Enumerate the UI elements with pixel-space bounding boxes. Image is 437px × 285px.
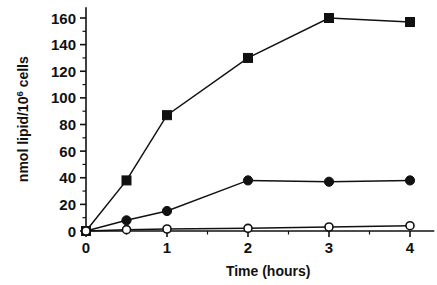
x-tick-label: 1: [163, 239, 171, 256]
data-point-filled-square: [406, 17, 415, 26]
data-point-open-circle: [82, 227, 90, 235]
data-point-filled-circle: [243, 176, 252, 185]
series-line: [86, 18, 410, 231]
data-point-filled-circle: [405, 176, 414, 185]
data-point-open-circle: [123, 226, 131, 234]
series-open-circle: [82, 222, 414, 235]
y-tick-label: 120: [51, 63, 76, 80]
line-chart: 02040608010012014016001234 Time (hours)n…: [0, 0, 437, 285]
data-point-filled-circle: [162, 206, 171, 215]
x-tick-label: 4: [406, 239, 415, 256]
data-point-filled-square: [163, 111, 172, 120]
x-tick-label: 0: [82, 239, 90, 256]
y-tick-label: 100: [51, 89, 76, 106]
x-axis-title: Time (hours): [226, 263, 311, 279]
chart-container: 02040608010012014016001234 Time (hours)n…: [0, 0, 437, 285]
data-point-open-circle: [406, 222, 414, 230]
axis-tick-labels: 02040608010012014016001234: [51, 10, 415, 257]
data-point-filled-circle: [324, 177, 333, 186]
y-axis-title: nmol lipid/106 cells: [14, 56, 31, 182]
axes: [86, 7, 434, 231]
x-tick-label: 3: [325, 239, 333, 256]
axis-ticks: [80, 18, 410, 237]
data-point-filled-square: [325, 14, 334, 23]
data-series: [81, 14, 414, 236]
y-tick-label: 0: [68, 223, 76, 240]
data-point-open-circle: [163, 225, 171, 233]
y-tick-label: 40: [59, 169, 76, 186]
y-tick-label: 160: [51, 10, 76, 27]
y-tick-label: 60: [59, 143, 76, 160]
y-tick-label: 140: [51, 36, 76, 53]
data-point-filled-circle: [122, 216, 131, 225]
series-filled-square: [82, 14, 415, 236]
series-line: [86, 180, 410, 231]
y-tick-label: 20: [59, 196, 76, 213]
y-tick-label: 80: [59, 116, 76, 133]
data-point-filled-square: [122, 176, 131, 185]
data-point-open-circle: [244, 224, 252, 232]
data-point-filled-square: [244, 53, 253, 62]
data-point-open-circle: [325, 223, 333, 231]
x-tick-label: 2: [244, 239, 252, 256]
